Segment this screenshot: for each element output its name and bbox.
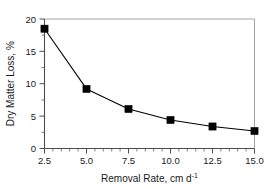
y-tick-label: 5 — [31, 111, 36, 122]
line-chart-canvas: 0 5 10 15 20 — [0, 0, 274, 189]
y-tick-label: 0 — [31, 143, 36, 154]
x-tick-label: 15.0 — [245, 155, 264, 166]
x-tick-label: 5.0 — [80, 155, 93, 166]
chart-figure: 0 5 10 15 20 — [0, 0, 274, 189]
x-axis-title-text: Removal Rate, cm d — [101, 173, 192, 184]
data-point-marker — [251, 127, 258, 134]
x-tick-label: 7.5 — [122, 155, 135, 166]
x-tick-label: 2.5 — [38, 155, 51, 166]
y-axis-title: Dry Matter Loss, % — [5, 41, 16, 126]
x-tick-label: 10.0 — [161, 155, 180, 166]
data-point-marker — [167, 116, 174, 123]
data-point-marker — [209, 123, 216, 130]
y-tick-label: 10 — [25, 78, 36, 89]
x-tick-label: 12.5 — [203, 155, 222, 166]
y-tick-label: 20 — [25, 14, 36, 25]
data-point-marker — [41, 25, 48, 32]
data-point-marker — [125, 105, 132, 112]
y-tick-label: 15 — [25, 46, 36, 57]
data-point-marker — [83, 85, 90, 92]
x-axis-title-exponent: -1 — [192, 172, 198, 179]
x-axis-title: Removal Rate, cm d-1 — [101, 172, 198, 184]
